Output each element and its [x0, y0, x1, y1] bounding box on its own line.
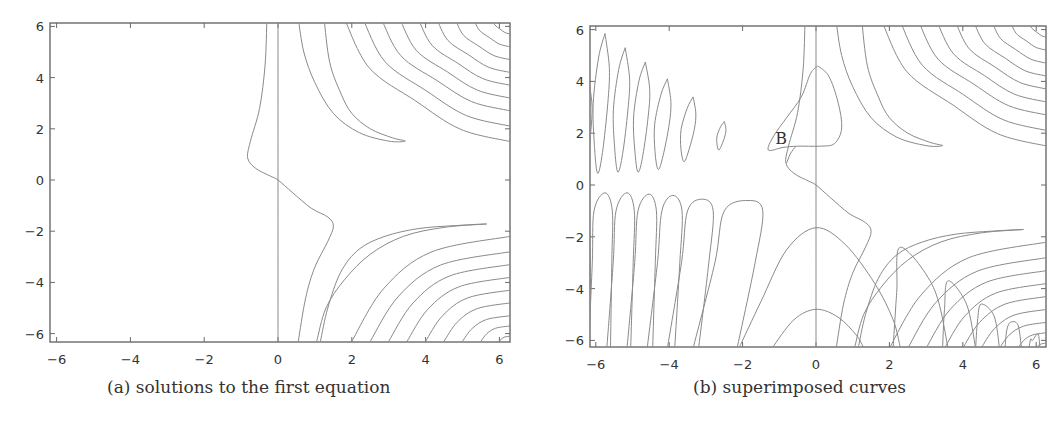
y-tick-label: −4	[25, 275, 44, 290]
oval-curve	[593, 34, 610, 174]
narrow-arch	[1005, 322, 1022, 349]
contour-curve-q1	[992, 22, 1047, 64]
y-tick-label: −6	[25, 327, 44, 342]
contour-curve-q1	[937, 22, 1047, 102]
contour-curve-q4	[945, 283, 1048, 348]
contour-curve-q4	[499, 336, 510, 341]
y-tick-label: −2	[25, 224, 44, 239]
contour-plot-a: −6−6−4−4−2−200224466	[0, 0, 527, 425]
panel-b: −6−6−4−4−2−200224466B (b) superimposed c…	[527, 0, 1055, 425]
contour-curve-q1	[381, 19, 510, 111]
hook-curve-q4	[317, 224, 487, 341]
y-tick-label: 4	[576, 74, 584, 89]
y-tick-label: −4	[565, 282, 584, 297]
annotation-b: B	[775, 129, 787, 148]
oval-curve	[717, 122, 726, 151]
x-tick-label: 6	[1032, 357, 1040, 372]
contour-curve-q4	[407, 277, 510, 341]
y-tick-label: 6	[36, 19, 44, 34]
s-curve	[247, 19, 333, 342]
contour-curve-q1	[363, 19, 511, 127]
contour-curve-q1	[900, 22, 1047, 131]
x-tick-label: −6	[47, 352, 66, 367]
x-tick-label: −2	[195, 352, 214, 367]
contour-curve-q4	[981, 309, 1047, 348]
x-tick-label: 0	[274, 352, 282, 367]
y-tick-label: 6	[576, 23, 584, 38]
x-tick-label: 4	[959, 357, 967, 372]
contour-plot-b: −6−6−4−4−2−200224466B	[527, 0, 1055, 425]
s-curve	[786, 22, 871, 348]
x-tick-label: 0	[812, 357, 820, 372]
oval-curve	[680, 97, 695, 162]
contour-curve-q4	[370, 252, 510, 342]
plot-frame	[50, 23, 510, 342]
arch-curve	[693, 201, 763, 349]
hook-curve-q4	[855, 229, 1024, 348]
x-tick-label: 6	[495, 352, 503, 367]
x-tick-label: 2	[348, 352, 356, 367]
contour-curve-q4	[908, 258, 1047, 349]
contour-curve-q1	[400, 19, 511, 98]
x-tick-label: −6	[586, 357, 605, 372]
oval-curve	[613, 48, 630, 172]
x-tick-label: −4	[121, 352, 140, 367]
panel-a: −6−6−4−4−2−200224466 (a) solutions to th…	[0, 0, 527, 425]
contour-curve-q1	[919, 22, 1047, 115]
x-tick-label: 2	[885, 357, 893, 372]
caption-a: (a) solutions to the first equation	[107, 377, 390, 397]
contour-curve-q1	[455, 19, 510, 60]
y-tick-label: −2	[565, 230, 584, 245]
contour-curve-q4	[889, 242, 1047, 348]
contour-curve-q1	[882, 22, 1047, 146]
arch-curve	[667, 199, 713, 348]
narrow-arch	[976, 304, 1000, 348]
x-tick-label: 4	[421, 352, 429, 367]
parabola-arch-lower	[772, 309, 864, 348]
oval-curve	[654, 79, 671, 170]
y-tick-label: 2	[576, 126, 584, 141]
caption-b: (b) superimposed curves	[693, 377, 906, 397]
parabola-arch-upper	[739, 228, 901, 349]
oval-curve	[633, 62, 649, 172]
contour-curve-q4	[444, 303, 511, 341]
y-tick-label: 0	[576, 178, 584, 193]
y-tick-label: 2	[36, 122, 44, 137]
contour-curve-q4	[352, 236, 511, 341]
arch-curve	[589, 193, 613, 348]
y-tick-label: −6	[565, 333, 584, 348]
x-tick-label: −4	[660, 357, 679, 372]
y-tick-label: 4	[36, 71, 44, 86]
y-tick-label: 0	[36, 173, 44, 188]
arch-curve	[647, 195, 682, 348]
x-tick-label: −2	[733, 357, 752, 372]
